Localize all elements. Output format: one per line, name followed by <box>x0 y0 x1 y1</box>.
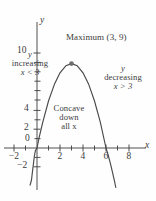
increasing-annotation-line3: x < 3 <box>6 68 54 77</box>
x-tick-label-2: 2 <box>58 152 63 162</box>
concavity-annotation-line3: all x <box>47 122 91 131</box>
x-tick-label-8: 8 <box>127 152 132 162</box>
decreasing-annotation-line3: x > 3 <box>96 82 150 91</box>
y-tick-label-4: 4 <box>24 104 29 114</box>
x-axis-label: x <box>145 141 149 151</box>
vertex-point-marker <box>69 61 74 66</box>
concavity-annotation: Concave down all x <box>47 104 91 130</box>
x-tick-label-neg2: −2 <box>9 152 19 162</box>
plot-canvas <box>0 0 156 201</box>
y-tick-label-neg2: −2 <box>17 161 27 171</box>
increasing-annotation: y increasing x < 3 <box>6 50 54 76</box>
maximum-annotation: Maximum (3, 9) <box>66 33 127 42</box>
x-tick-label-6: 6 <box>104 152 109 162</box>
y-tick-label-2: 2 <box>24 123 29 133</box>
y-tick-label-0: 0 <box>25 134 30 144</box>
y-axis-label: y <box>40 16 44 26</box>
decreasing-annotation: y decreasing x > 3 <box>96 64 150 90</box>
parabola-figure: y x 10 4 2 0 −2 −2 2 4 6 8 Maximum (3, 9… <box>0 0 156 201</box>
x-tick-label-4: 4 <box>81 152 86 162</box>
